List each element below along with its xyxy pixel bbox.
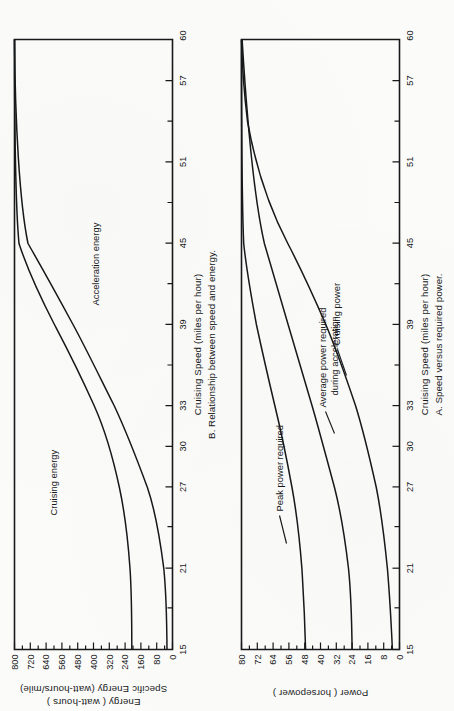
figure-a-y-ticks <box>241 642 399 649</box>
y-tick-label: 56 <box>284 654 294 664</box>
y-tick-label: 72 <box>252 654 262 664</box>
y-tick-label: 32 <box>331 654 341 664</box>
x-tick-label: 45 <box>177 237 187 247</box>
x-tick-label: 51 <box>404 156 414 166</box>
figure-a-svg: 0 8 16 24 32 40 48 56 64 72 80 <box>227 0 454 711</box>
series-label-acceleration-energy: Acceleration energy <box>89 222 100 305</box>
series-acceleration-energy-curve <box>14 39 167 649</box>
series-peak-power-curve <box>241 39 305 649</box>
figure-a-x-tick-labels: 15 21 27 30 33 39 45 51 57 60 <box>404 30 414 654</box>
y-tick-label: 800 <box>9 654 19 669</box>
y-tick-label: 40 <box>315 654 325 664</box>
figure-b-svg: 0 80 160 240 320 400 480 560 640 720 800 <box>0 0 227 711</box>
scanned-page: 0 80 160 240 320 400 480 560 640 720 800 <box>0 0 454 711</box>
figure-b-y-ticks <box>14 642 172 649</box>
x-tick-label: 33 <box>177 400 187 410</box>
figure-a-y-tick-labels: 0 8 16 24 32 40 48 56 64 72 80 <box>236 654 404 664</box>
y-axis-title-outer: Energy ( watt-hours ) <box>46 696 140 707</box>
x-axis-title: Cruising Speed (miles per hour) <box>418 273 429 415</box>
figure-b-axes <box>14 39 172 649</box>
y-tick-label: 48 <box>300 654 310 664</box>
x-tick-label: 45 <box>404 237 414 247</box>
figure-b-y-tick-labels: 0 80 160 240 320 400 480 560 640 720 800 <box>9 654 177 669</box>
x-tick-label: 30 <box>177 441 187 451</box>
y-axis-title: Power ( horsepower ) <box>272 687 368 698</box>
x-tick-label: 30 <box>404 441 414 451</box>
y-axis-title-inner: Specific Energy (watt-hours/mile) <box>19 683 166 694</box>
series-label-average-power-line1: Average power required <box>316 307 327 407</box>
x-tick-label: 33 <box>404 400 414 410</box>
y-tick-label: 64 <box>268 654 278 664</box>
y-tick-label: 720 <box>25 654 35 669</box>
x-tick-label: 57 <box>404 75 414 85</box>
series-label-cruising-energy: Cruising energy <box>47 449 58 515</box>
y-tick-label: 80 <box>236 654 246 664</box>
y-tick-label: 480 <box>73 654 83 669</box>
y-tick-label: 80 <box>152 654 162 664</box>
y-tick-label: 400 <box>88 654 98 669</box>
y-tick-label: 16 <box>363 654 373 664</box>
series-cruising-energy-curve <box>14 39 131 649</box>
x-tick-label: 60 <box>177 30 187 40</box>
x-tick-label: 21 <box>177 563 187 573</box>
x-tick-label: 15 <box>177 644 187 654</box>
x-tick-label: 27 <box>404 481 414 491</box>
figure-caption: A. Speed versus required power. <box>432 273 443 415</box>
figure-b-x-tick-labels: 15 21 27 30 33 39 45 51 57 60 <box>177 30 187 654</box>
x-axis-title: Cruising Speed (miles per hour) <box>191 273 202 415</box>
y-tick-label: 240 <box>120 654 130 669</box>
series-label-peak-power: Peak power required <box>273 424 284 511</box>
x-tick-label: 39 <box>177 319 187 329</box>
y-tick-label: 8 <box>379 654 389 659</box>
y-tick-label: 320 <box>104 654 114 669</box>
peak-power-leader-line <box>279 515 286 543</box>
y-tick-label: 640 <box>41 654 51 669</box>
x-tick-label: 57 <box>177 75 187 85</box>
y-tick-label: 560 <box>57 654 67 669</box>
x-tick-label: 51 <box>177 156 187 166</box>
x-tick-label: 60 <box>404 30 414 40</box>
x-tick-label: 15 <box>404 644 414 654</box>
figure-a-x-ticks <box>392 39 399 649</box>
x-tick-label: 27 <box>177 481 187 491</box>
average-power-leader-line <box>325 411 334 433</box>
figure-b-container: 0 80 160 240 320 400 480 560 640 720 800 <box>0 0 227 711</box>
y-tick-label: 0 <box>394 654 404 659</box>
figure-a-container: 0 8 16 24 32 40 48 56 64 72 80 <box>227 0 454 711</box>
figure-caption: B. Relationship between speed and energy… <box>205 250 216 439</box>
y-tick-label: 24 <box>347 654 357 664</box>
figure-b-x-ticks <box>165 39 172 649</box>
y-tick-label: 0 <box>167 654 177 659</box>
x-tick-label: 21 <box>404 563 414 573</box>
x-tick-label: 39 <box>404 319 414 329</box>
y-tick-label: 160 <box>136 654 146 669</box>
series-label-cruising-power: Cruising power <box>330 282 341 345</box>
